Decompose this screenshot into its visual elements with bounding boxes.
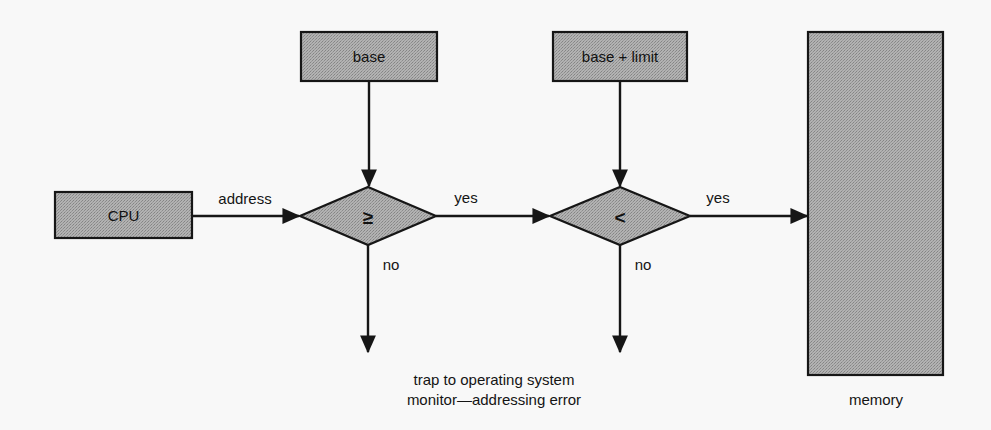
- edge-label-lt-no: no: [635, 256, 652, 275]
- decision-ge-diamond: ≥: [300, 187, 436, 245]
- diagram-canvas: CPU base base + limit ≥ <: [0, 0, 991, 430]
- decision-lt-diamond: <: [550, 187, 690, 245]
- memory-box: [808, 32, 943, 375]
- decision-lt-label: <: [614, 207, 625, 228]
- cpu-box: CPU: [55, 192, 192, 238]
- cpu-box-label: CPU: [108, 207, 140, 224]
- connector-layer: [192, 81, 807, 352]
- base-box: base: [301, 32, 437, 81]
- diagram-vector-layer: CPU base base + limit ≥ <: [0, 0, 991, 430]
- edge-label-lt-yes: yes: [706, 189, 729, 208]
- base-limit-box: base + limit: [553, 32, 687, 81]
- edge-label-ge-no: no: [383, 256, 400, 275]
- base-limit-box-label: base + limit: [582, 48, 659, 65]
- base-box-label: base: [353, 48, 386, 65]
- trap-message-line2: monitor—addressing error: [407, 391, 581, 410]
- decision-ge-label: ≥: [363, 207, 373, 228]
- trap-message-line1: trap to operating system: [414, 371, 575, 390]
- memory-box-caption: memory: [849, 391, 903, 410]
- edge-label-ge-yes: yes: [454, 189, 477, 208]
- edge-label-address: address: [218, 190, 271, 209]
